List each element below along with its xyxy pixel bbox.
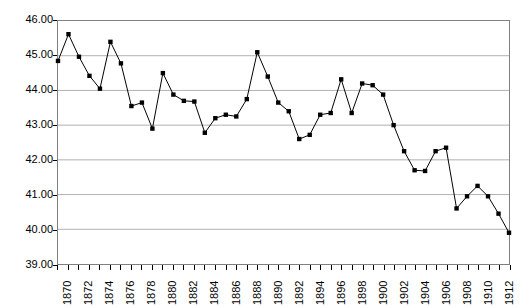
data-point-marker [329, 111, 333, 115]
x-axis-tick-mark [99, 265, 100, 270]
x-axis-tick-mark [405, 265, 406, 270]
data-point-marker [475, 184, 479, 188]
line-chart: 39.0040.0041.0042.0043.0044.0045.0046.00… [0, 0, 524, 308]
x-axis-tick-mark [68, 265, 69, 270]
x-axis-tick-mark [152, 265, 153, 270]
data-point-marker [182, 99, 186, 103]
x-axis-tick-label: 1898 [357, 281, 368, 305]
x-axis-tick-label: 1880 [167, 281, 178, 305]
y-axis-tick-label: 46.00 [1, 14, 53, 25]
data-point-marker [339, 77, 343, 81]
x-axis-tick-mark [510, 265, 511, 270]
y-axis-tick-label: 42.00 [1, 154, 53, 165]
data-point-marker [192, 99, 196, 103]
x-axis-tick-mark [89, 265, 90, 270]
data-point-marker [266, 74, 270, 78]
x-axis-tick-mark [131, 265, 132, 270]
x-axis-tick-mark [352, 265, 353, 270]
data-point-marker [454, 206, 458, 210]
x-axis-tick-label: 1894 [315, 281, 326, 305]
x-axis-tick-mark [394, 265, 395, 270]
x-axis-tick-mark [468, 265, 469, 270]
x-axis-tick-label: 1906 [441, 281, 452, 305]
data-point-marker [129, 104, 133, 108]
data-point-marker [308, 133, 312, 137]
data-point-marker [370, 83, 374, 87]
x-axis-tick-mark [120, 265, 121, 270]
data-point-marker [444, 146, 448, 150]
x-axis-tick-mark [257, 265, 258, 270]
data-point-marker [402, 149, 406, 153]
x-axis-tick-mark [331, 265, 332, 270]
data-point-marker [224, 113, 228, 117]
x-axis-tick-label: 1912 [504, 281, 515, 305]
data-point-marker [66, 32, 70, 36]
x-axis-tick-label: 1888 [252, 281, 263, 305]
x-axis-tick-mark [320, 265, 321, 270]
data-point-marker [140, 100, 144, 104]
x-axis-tick-mark [173, 265, 174, 270]
x-axis-tick-label: 1874 [104, 281, 115, 305]
data-point-marker [77, 55, 81, 59]
data-point-marker [119, 61, 123, 65]
y-axis-tick-label: 44.00 [1, 84, 53, 95]
data-point-marker [496, 211, 500, 215]
data-point-marker [412, 168, 416, 172]
series-line [58, 34, 509, 233]
x-axis-tick-mark [194, 265, 195, 270]
x-axis-tick-mark [183, 265, 184, 270]
data-series [58, 21, 509, 264]
data-point-marker [56, 59, 60, 63]
x-axis-tick-mark [278, 265, 279, 270]
x-axis-tick-label: 1884 [209, 281, 220, 305]
x-axis-tick-mark [478, 265, 479, 270]
data-point-marker [297, 137, 301, 141]
data-point-marker [108, 40, 112, 44]
x-axis-tick-label: 1870 [62, 281, 73, 305]
x-axis-tick-mark [226, 265, 227, 270]
data-point-marker [203, 131, 207, 135]
x-axis-tick-mark [489, 265, 490, 270]
data-point-marker [150, 126, 154, 130]
x-axis-tick-mark [204, 265, 205, 270]
x-axis-tick-label: 1902 [399, 281, 410, 305]
data-point-marker [245, 97, 249, 101]
x-axis-tick-mark [110, 265, 111, 270]
x-axis-tick-mark [141, 265, 142, 270]
y-axis: 39.0040.0041.0042.0043.0044.0045.0046.00 [0, 0, 53, 308]
y-axis-tick-label: 40.00 [1, 224, 53, 235]
x-axis-tick-mark [247, 265, 248, 270]
x-axis-tick-label: 1882 [188, 281, 199, 305]
x-axis-tick-mark [57, 265, 58, 270]
plot-area [57, 20, 510, 265]
x-axis-tick-mark [436, 265, 437, 270]
data-point-marker [234, 114, 238, 118]
x-axis-tick-mark [373, 265, 374, 270]
x-axis-tick-label: 1876 [125, 281, 136, 305]
x-axis-tick-label: 1872 [83, 281, 94, 305]
data-point-marker [391, 123, 395, 127]
x-axis-tick-mark [415, 265, 416, 270]
x-axis-tick-mark [310, 265, 311, 270]
x-axis-tick-label: 1892 [294, 281, 305, 305]
x-axis-tick-mark [289, 265, 290, 270]
x-axis-tick-mark [268, 265, 269, 270]
y-axis-tick-label: 45.00 [1, 49, 53, 60]
data-point-marker [433, 149, 437, 153]
data-point-marker [360, 81, 364, 85]
x-axis-tick-label: 1896 [336, 281, 347, 305]
x-axis-tick-label: 1910 [483, 281, 494, 305]
data-point-marker [87, 74, 91, 78]
x-axis-tick-label: 1890 [273, 281, 284, 305]
x-axis-tick-mark [299, 265, 300, 270]
x-axis-tick-mark [341, 265, 342, 270]
x-axis-tick-mark [363, 265, 364, 270]
x-axis: 1870187218741876187818801882188418861888… [57, 272, 510, 308]
x-axis-tick-label: 1900 [378, 281, 389, 305]
data-point-marker [381, 92, 385, 96]
data-point-marker [161, 71, 165, 75]
data-point-marker [486, 194, 490, 198]
x-axis-tick-mark [426, 265, 427, 270]
x-axis-tick-label: 1904 [420, 281, 431, 305]
data-point-marker [423, 169, 427, 173]
